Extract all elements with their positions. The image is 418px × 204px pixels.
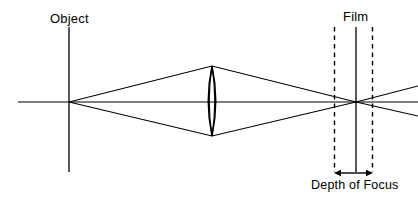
diverging-lower-ray <box>356 102 418 116</box>
depth-of-focus-label: Depth of Focus <box>311 179 399 192</box>
diverging-upper-ray <box>356 86 418 102</box>
depth-of-focus-arrowhead-left <box>334 170 341 176</box>
ray-diagram-canvas <box>0 0 418 204</box>
film-label: Film <box>343 10 368 23</box>
depth-of-focus-arrowhead-right <box>366 170 373 176</box>
object-label: Object <box>50 12 89 25</box>
optical-diagram: Object Film Depth of Focus <box>0 0 418 204</box>
